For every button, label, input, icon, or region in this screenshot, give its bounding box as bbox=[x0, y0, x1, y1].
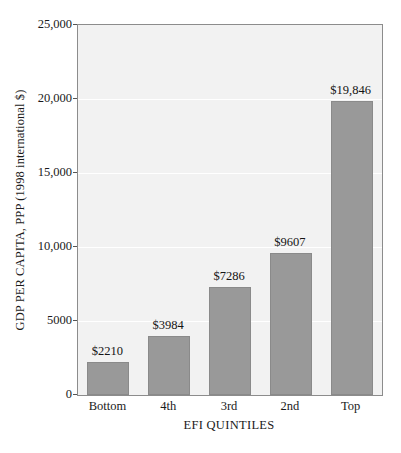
gridline bbox=[78, 99, 382, 100]
bar bbox=[148, 336, 190, 395]
bar-value-label: $2210 bbox=[62, 344, 152, 358]
y-tick-mark bbox=[73, 98, 77, 99]
bar bbox=[331, 101, 373, 395]
x-tick-label: Top bbox=[306, 399, 396, 413]
y-tick-label: 25,000 bbox=[24, 18, 72, 30]
bar-value-label: $9607 bbox=[245, 235, 335, 249]
bar-value-label: $19,846 bbox=[306, 83, 396, 97]
y-axis-ticks: 0500010,00015,00020,00025,000 bbox=[22, 0, 72, 453]
bar-value-label: $3984 bbox=[123, 318, 213, 332]
bar bbox=[270, 253, 312, 395]
y-tick-label: 15,000 bbox=[24, 166, 72, 178]
y-tick-label: 10,000 bbox=[24, 240, 72, 252]
bar-chart: GDP PER CAPITA, PPP (1998 international … bbox=[0, 0, 401, 453]
y-tick-label: 5000 bbox=[24, 314, 72, 326]
y-tick-mark bbox=[73, 172, 77, 173]
bar bbox=[87, 362, 129, 395]
y-tick-label: 20,000 bbox=[24, 92, 72, 104]
y-tick-mark bbox=[73, 394, 77, 395]
x-axis-title: EFI QUINTILES bbox=[77, 418, 381, 433]
y-tick-mark bbox=[73, 320, 77, 321]
y-tick-mark bbox=[73, 246, 77, 247]
bar bbox=[209, 287, 251, 395]
plot-area bbox=[77, 24, 383, 396]
y-tick-mark bbox=[73, 24, 77, 25]
bar-value-label: $7286 bbox=[184, 269, 274, 283]
